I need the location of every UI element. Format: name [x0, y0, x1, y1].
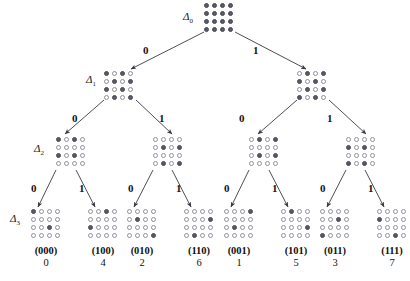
dot-empty-r1c4	[207, 208, 215, 216]
dot-grid	[103, 70, 135, 102]
dot-empty-r4c2	[256, 160, 264, 168]
dot-empty-r2c2	[288, 216, 296, 224]
dot-filled-r2c3	[361, 144, 369, 152]
dot-empty-r2c1	[319, 216, 327, 224]
delta1-node-right	[296, 70, 328, 102]
dot-empty-r4c1	[30, 232, 38, 240]
edge-d2-11-to-011	[327, 170, 346, 207]
dot-filled-r4c4	[176, 160, 184, 168]
dot-empty-r2c3	[71, 144, 79, 152]
delta3-leaf-110	[183, 208, 215, 240]
dot-empty-r3c1	[30, 224, 38, 232]
dot-filled-r1c1	[203, 2, 211, 10]
dot-grid	[296, 70, 328, 102]
dot-empty-r2c3	[103, 216, 111, 224]
dot-empty-r1c2	[384, 208, 392, 216]
delta3-leaf-010-caption: (010)2	[114, 245, 170, 268]
edge-label-delta2-node-00: 0	[72, 112, 78, 124]
edge-label-delta2-node-10: 1	[159, 112, 165, 124]
dot-empty-r1c2	[111, 70, 119, 78]
dot-empty-r2c4	[272, 144, 280, 152]
dot-empty-r1c2	[95, 208, 103, 216]
edge-label-delta3-leaf-001: 0	[224, 182, 230, 194]
dot-empty-r2c1	[30, 216, 38, 224]
dot-empty-r2c3	[392, 216, 400, 224]
dot-filled-r2c2	[134, 216, 142, 224]
dot-empty-r1c2	[63, 136, 71, 144]
delta2-node-10	[152, 136, 184, 168]
dot-empty-r2c3	[264, 144, 272, 152]
delta3-leaf-000-decimal: 0	[18, 257, 74, 268]
dot-empty-r2c2	[63, 144, 71, 152]
dot-filled-r1c3	[103, 208, 111, 216]
dot-empty-r3c4	[247, 224, 255, 232]
dot-filled-r2c3	[219, 10, 227, 18]
delta3-leaf-001-binary: (001)	[211, 245, 267, 256]
dot-empty-r4c2	[38, 232, 46, 240]
dot-empty-r2c1	[87, 216, 95, 224]
dot-empty-r1c3	[361, 136, 369, 144]
dot-filled-r3c1	[55, 152, 63, 160]
dot-filled-r4c3	[312, 94, 320, 102]
delta3-leaf-001-decimal: 1	[211, 257, 267, 268]
dot-empty-r3c4	[207, 224, 215, 232]
dot-empty-r4c1	[376, 232, 384, 240]
dot-empty-r1c1	[319, 208, 327, 216]
dot-empty-r2c4	[150, 216, 158, 224]
dot-filled-r4c1	[203, 26, 211, 34]
dot-empty-r1c3	[312, 70, 320, 78]
delta3-leaf-000-caption: (000)0	[18, 245, 74, 268]
dot-empty-r4c3	[264, 160, 272, 168]
dot-empty-r2c4	[79, 144, 87, 152]
dot-empty-r3c4	[127, 86, 135, 94]
dot-empty-r3c2	[327, 224, 335, 232]
dot-empty-r2c2	[191, 216, 199, 224]
dot-filled-r3c3	[119, 86, 127, 94]
dot-empty-r1c3	[239, 208, 247, 216]
dot-filled-r1c2	[211, 2, 219, 10]
dot-filled-r2c2	[211, 10, 219, 18]
dot-filled-r4c3	[392, 232, 400, 240]
dot-filled-r1c4	[272, 136, 280, 144]
delta3-leaf-011	[319, 208, 351, 240]
dot-empty-r3c2	[38, 224, 46, 232]
dot-empty-r2c2	[304, 78, 312, 86]
dot-empty-r2c2	[95, 216, 103, 224]
edge-root-to-d1-right	[235, 32, 306, 69]
dot-empty-r3c4	[400, 224, 408, 232]
dot-empty-r2c4	[111, 216, 119, 224]
delta3-leaf-101	[280, 208, 312, 240]
dot-filled-r2c4	[176, 144, 184, 152]
dot-empty-r1c2	[327, 208, 335, 216]
dot-empty-r1c3	[335, 208, 343, 216]
dot-empty-r1c4	[176, 136, 184, 144]
dot-empty-r3c3	[142, 224, 150, 232]
dot-filled-r4c1	[345, 160, 353, 168]
dot-empty-r1c4	[150, 208, 158, 216]
dot-filled-r1c3	[71, 136, 79, 144]
dot-empty-r3c2	[160, 152, 168, 160]
dot-empty-r1c4	[343, 208, 351, 216]
dot-empty-r1c3	[46, 208, 54, 216]
dot-empty-r2c3	[199, 216, 207, 224]
dot-filled-r4c1	[319, 232, 327, 240]
dot-empty-r4c4	[54, 232, 62, 240]
dot-filled-r1c2	[304, 70, 312, 78]
delta3-leaf-011-binary: (011)	[307, 245, 363, 256]
dot-filled-r3c4	[304, 224, 312, 232]
dot-empty-r2c1	[126, 216, 134, 224]
dot-filled-r4c2	[111, 94, 119, 102]
dot-empty-r1c1	[296, 70, 304, 78]
dot-empty-r3c3	[199, 224, 207, 232]
dot-empty-r2c3	[296, 216, 304, 224]
dot-filled-r2c1	[345, 144, 353, 152]
dot-empty-r4c4	[111, 232, 119, 240]
dot-empty-r3c2	[384, 224, 392, 232]
dot-empty-r4c2	[353, 160, 361, 168]
dot-empty-r4c3	[46, 232, 54, 240]
dot-empty-r4c2	[304, 94, 312, 102]
dot-empty-r4c2	[384, 232, 392, 240]
edge-label-delta3-leaf-110: 1	[176, 182, 182, 194]
dot-empty-r3c4	[369, 152, 377, 160]
dot-empty-r1c4	[304, 208, 312, 216]
